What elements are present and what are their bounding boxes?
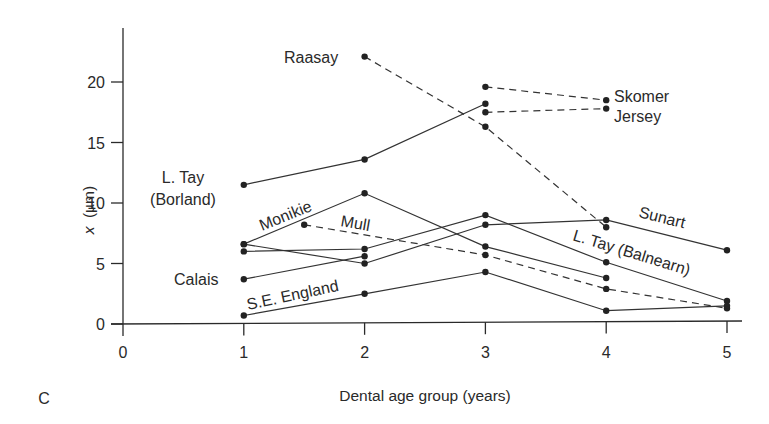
- data-point: [603, 224, 609, 230]
- label-skomer: Skomer: [614, 88, 670, 105]
- data-point: [361, 291, 367, 297]
- series-line: [365, 57, 607, 228]
- label-raasay: Raasay: [284, 49, 338, 66]
- series-line: [485, 109, 606, 113]
- label-monikie: Monikie: [257, 197, 315, 233]
- data-point: [241, 276, 247, 282]
- series-line: [485, 87, 606, 100]
- label-calais: Calais: [174, 271, 218, 288]
- data-point: [301, 222, 307, 228]
- x-tick-label: 4: [602, 344, 611, 361]
- data-point: [241, 312, 247, 318]
- x-tick-label: 2: [360, 344, 369, 361]
- chart-panel-c: 05101520012345 RaasaySkomerJerseyL. Tay(…: [0, 0, 769, 424]
- y-axis-title: x (µm): [80, 186, 97, 235]
- x-tick-label: 0: [119, 344, 128, 361]
- label-mull: Mull: [339, 212, 371, 234]
- series-line: [244, 104, 486, 185]
- data-point: [603, 286, 609, 292]
- data-point: [482, 109, 488, 115]
- x-axis-title: Dental age group (years): [339, 387, 510, 404]
- x-tick-label: 3: [481, 344, 490, 361]
- data-point: [361, 53, 367, 59]
- label-s-e-england: S.E. England: [245, 277, 340, 313]
- data-point: [482, 212, 488, 218]
- data-point: [482, 243, 488, 249]
- data-point: [482, 84, 488, 90]
- data-point: [241, 182, 247, 188]
- line-chart: 05101520012345 RaasaySkomerJerseyL. Tay(…: [0, 0, 769, 424]
- y-tick-label: 5: [96, 256, 105, 273]
- data-point: [361, 253, 367, 259]
- data-point: [241, 248, 247, 254]
- panel-label: C: [38, 390, 50, 407]
- x-tick-label: 5: [723, 344, 732, 361]
- label-sunart: Sunart: [637, 203, 687, 231]
- label-jersey: Jersey: [614, 108, 661, 125]
- series-labels: RaasaySkomerJerseyL. Tay(Borland)Monikie…: [150, 49, 692, 313]
- data-point: [603, 259, 609, 265]
- series-jersey: [482, 105, 609, 115]
- series-l-tay-borland: [241, 101, 489, 188]
- y-tick-label: 20: [87, 74, 105, 91]
- data-point: [361, 260, 367, 266]
- data-point: [482, 222, 488, 228]
- data-point: [361, 246, 367, 252]
- data-point: [361, 190, 367, 196]
- data-point: [361, 156, 367, 162]
- x-tick-label: 1: [239, 344, 248, 361]
- data-point: [241, 241, 247, 247]
- y-tick-label: 15: [87, 135, 105, 152]
- data-point: [724, 247, 730, 253]
- x-axis: [111, 321, 742, 324]
- series-raasay: [361, 53, 609, 230]
- series-calais: [241, 253, 368, 282]
- data-point: [724, 303, 730, 309]
- data-point: [482, 101, 488, 107]
- y-tick-label: 0: [96, 316, 105, 333]
- data-point: [603, 217, 609, 223]
- label-l-tay-borland: L. Tay(Borland): [150, 169, 216, 208]
- data-point: [603, 275, 609, 281]
- series-skomer: [482, 84, 609, 104]
- data-point: [603, 97, 609, 103]
- data-point: [603, 105, 609, 111]
- series-line: [244, 256, 365, 279]
- data-point: [482, 252, 488, 258]
- data-point: [603, 307, 609, 313]
- data-point: [482, 269, 488, 275]
- data-point: [482, 124, 488, 130]
